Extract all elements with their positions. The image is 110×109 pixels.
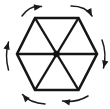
rotation-arrow-bottom-left-head [20,92,30,102]
rotation-arrow-top-left [22,3,42,16]
rotation-arrow-top-right [71,6,95,18]
rotation-arrow-right [100,40,108,69]
rotating-hexagon-figure [0,0,110,109]
rotation-arrow-bottom-right [62,96,88,105]
rotation-arrow-left-head [3,41,11,50]
hexagon-diagram-canvas [0,0,110,109]
hexagon-center-dot [53,51,59,57]
rotation-arrow-bottom-left [20,92,45,104]
rotation-arrow-left [3,41,11,70]
rotation-arrow-right-head [100,60,108,69]
rotation-arrow-top-right-head [86,8,95,18]
